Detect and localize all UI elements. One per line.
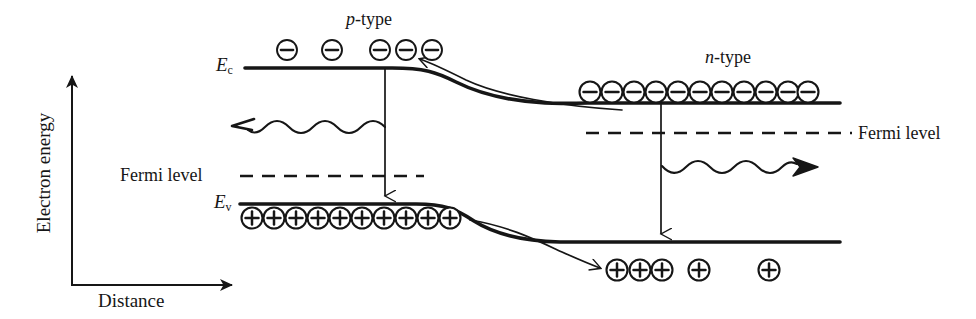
ec-subscript: c [228,63,233,77]
electron-marker [322,40,342,60]
hole-marker [308,208,329,229]
hole-marker [286,208,307,229]
hole-marker [242,208,263,229]
electron-marker [668,82,689,103]
hole-marker [418,208,439,229]
hole-marker [607,260,628,281]
electron-marker [370,40,390,60]
electron-marker [602,82,623,103]
band-diagram-figure: Electron energy Distance p-type n-type E… [0,0,976,319]
electron-marker [396,40,416,60]
fermi-level-label-left: Fermi level [120,166,202,184]
n-type-region-label: n-type [705,48,751,66]
electron-marker [277,40,297,60]
conduction-band-label: Ec [216,55,233,76]
electron-marker [422,40,442,60]
valence-band-label: Ev [214,192,232,213]
hole-marker [440,208,461,229]
electron-marker [580,82,601,103]
p-type-italic-letter: p [346,9,355,29]
hole-marker [374,208,395,229]
n-type-italic-letter: n [705,47,714,67]
hole-marker [330,208,351,229]
electron-marker [756,82,777,103]
hole-marker [264,208,285,229]
hole-marker [396,208,417,229]
electron-marker [646,82,667,103]
photon-wave-p [248,121,385,133]
ev-symbol: E [214,191,226,212]
hole-marker [689,260,710,281]
electron-marker [798,82,819,103]
fermi-level-label-right: Fermi level [858,124,940,142]
x-axis-label: Distance [98,291,164,310]
hole-marker [630,260,651,281]
electron-marker [734,82,755,103]
n-type-suffix: -type [714,47,751,67]
hole-marker [759,260,780,281]
ec-symbol: E [216,54,228,75]
electron-marker [778,82,799,103]
p-type-suffix: -type [355,9,392,29]
ev-subscript: v [226,200,232,214]
electron-marker [712,82,733,103]
photon-arrowhead-n [793,158,818,176]
hole-marker [652,260,673,281]
p-type-region-label: p-type [346,10,392,28]
y-axis-label: Electron energy [34,78,53,268]
photon-arrowhead-p [232,119,254,130]
band-diagram-canvas [0,0,976,319]
hole-marker [352,208,373,229]
electron-marker [624,82,645,103]
electron-marker [690,82,711,103]
carrier-layer [242,40,819,281]
photon-wave-n [662,161,797,173]
